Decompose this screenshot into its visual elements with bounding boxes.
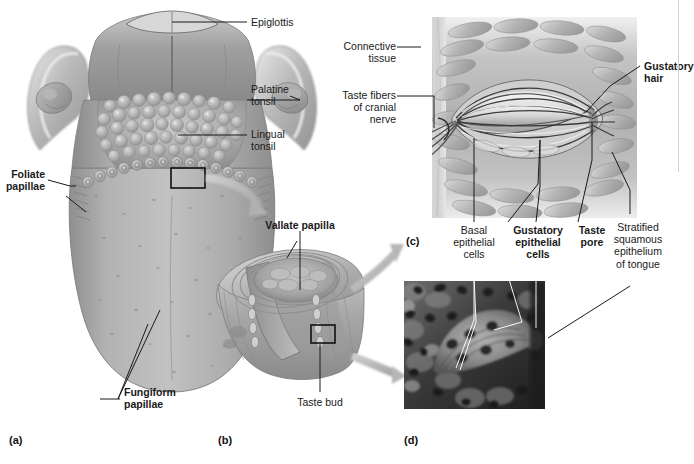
panel-letter-b: (b) xyxy=(218,434,232,446)
label-vallate-papilla: Vallate papilla xyxy=(246,219,354,231)
lingual-tonsil xyxy=(96,92,247,168)
right-edge-rule xyxy=(678,0,679,172)
label-gustatory-epithelial-cells: Gustatory epithelial cells xyxy=(501,224,575,261)
label-epiglottis: Epiglottis xyxy=(251,16,294,28)
panel-letter-c: (c) xyxy=(406,235,419,247)
epiglottis-region xyxy=(89,11,256,104)
label-foliate-papillae: Foliate papillae xyxy=(0,168,45,192)
arrow-b-to-d xyxy=(352,356,406,384)
arrow-b-to-c xyxy=(352,244,404,290)
panel-letter-d: (d) xyxy=(404,434,418,446)
panel-c-taste-bud-illustration xyxy=(397,17,640,222)
label-lingual-tonsil: Lingual tonsil xyxy=(251,128,285,152)
papilla-crown xyxy=(254,258,338,302)
label-taste-fibers-of-cranial-nerve: Taste fibers of cranial nerve xyxy=(326,89,396,126)
label-basal-epithelial-cells: Basal epithelial cells xyxy=(441,224,507,261)
panel-d-photomicrograph xyxy=(400,276,630,409)
label-palatine-tonsil: Palatine tonsil xyxy=(251,83,289,107)
label-gustatory-hair: Gustatory hair xyxy=(644,60,694,84)
panel-letter-a: (a) xyxy=(9,434,22,446)
label-taste-bud: Taste bud xyxy=(278,396,362,408)
label-stratified-squamous-epithelium: Stratified squamous epithelium of tongue xyxy=(602,221,674,270)
label-connective-tissue: Connective tissue xyxy=(332,40,396,64)
label-fungiform-papillae: Fungiform papillae xyxy=(124,386,176,410)
